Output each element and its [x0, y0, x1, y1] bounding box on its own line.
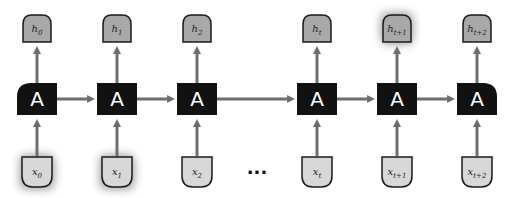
input-label-subscript: 1 [118, 172, 122, 180]
rnn-unrolled-diagram: h0Ax0h1Ax1h2Ax2htAxtht+1Axt+1ht+2Axt+2..… [0, 0, 509, 198]
rnn-cell-label: A [470, 87, 484, 111]
rnn-cell-label: A [190, 87, 204, 111]
timestep-5: ht+2Axt+2 [457, 15, 497, 187]
output-label-subscript: 1 [118, 29, 122, 37]
input-label-subscript: t+1 [393, 172, 406, 180]
rnn-cell-label: A [390, 87, 404, 111]
output-label-subscript: t [319, 29, 322, 37]
input-label-subscript: 0 [38, 172, 43, 180]
timestep-2: h2Ax2 [177, 15, 217, 187]
output-label-subscript: 2 [197, 29, 203, 37]
rnn-cell-label: A [310, 87, 324, 111]
ellipsis: ... [247, 157, 268, 178]
output-label-subscript: 0 [38, 29, 43, 37]
timestep-3: htAxt [297, 15, 337, 187]
output-label-subscript: t+2 [474, 29, 488, 37]
timestep-1: h1Ax1 [97, 15, 137, 187]
input-label-subscript: t+2 [473, 172, 487, 180]
output-label-subscript: t+1 [394, 29, 407, 37]
input-label-subscript: t [318, 172, 321, 180]
timestep-0: h0Ax0 [17, 15, 57, 187]
input-label-subscript: 2 [197, 172, 203, 180]
rnn-cell-label: A [110, 87, 124, 111]
timestep-4: ht+1Axt+1 [377, 15, 417, 187]
rnn-cell-label: A [30, 87, 44, 111]
